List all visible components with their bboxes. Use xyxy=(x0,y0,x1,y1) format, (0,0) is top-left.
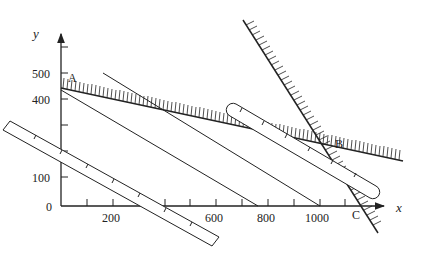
x-tick-200: 200 xyxy=(102,211,120,225)
y-axis xyxy=(61,34,68,206)
origin-label: 0 xyxy=(46,200,52,214)
lp-diagram: y x 0 100 400 500 200 600 800 1000 A B C xyxy=(0,0,426,264)
x-tick-1000: 1000 xyxy=(305,211,329,225)
point-c-label: C xyxy=(352,208,360,222)
x-tick-600: 600 xyxy=(205,211,223,225)
y-tick-400: 400 xyxy=(32,93,50,107)
point-b-label: B xyxy=(335,137,343,151)
x-tick-800: 800 xyxy=(257,211,275,225)
x-axis-label: x xyxy=(395,200,402,215)
point-a-label: A xyxy=(68,71,77,85)
y-axis-label: y xyxy=(31,26,39,41)
y-tick-100: 100 xyxy=(32,171,50,185)
constraint-line-ab xyxy=(61,78,403,161)
y-tick-500: 500 xyxy=(32,67,50,81)
x-axis xyxy=(61,199,384,206)
